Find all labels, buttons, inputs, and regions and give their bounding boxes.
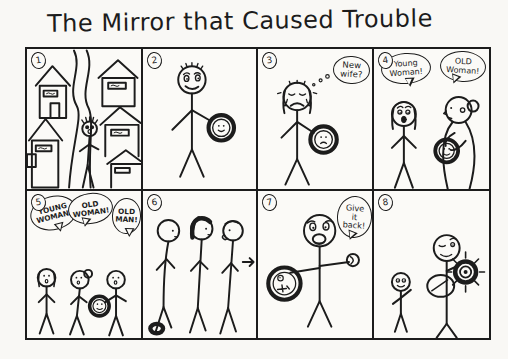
thought-text: New wife? — [338, 60, 366, 80]
panel-1-illustration — [27, 49, 141, 189]
panel-2: 2 — [143, 49, 259, 191]
panel-4: 4 Young Woman! OLD Woman! — [374, 49, 490, 191]
speech-text: OLD WOMAN! — [71, 198, 109, 219]
panel-6-illustration — [143, 191, 257, 338]
panel-6: 6 — [143, 191, 259, 338]
panel-7: 7 Give it back! — [258, 191, 374, 338]
panel-2-illustration — [143, 49, 257, 189]
speech-text: OLD MAN! — [115, 208, 138, 225]
comic-page: The Mirror that Caused Trouble 1 — [0, 0, 508, 359]
panel-3: 3 New wife? — [258, 49, 374, 191]
speech-text: OLD Woman! — [444, 57, 481, 76]
comic-grid: 1 — [25, 47, 491, 340]
comic-title: The Mirror that Caused Trouble — [0, 3, 494, 38]
panel-8: 8 — [374, 191, 490, 338]
panel-1: 1 — [27, 49, 143, 191]
speech-text: Give it back! — [341, 203, 368, 231]
panel-5: 5 YOUNG WOMAN! OLD WOMAN! OLD MAN! — [27, 191, 143, 338]
panel-8-illustration — [374, 191, 490, 338]
